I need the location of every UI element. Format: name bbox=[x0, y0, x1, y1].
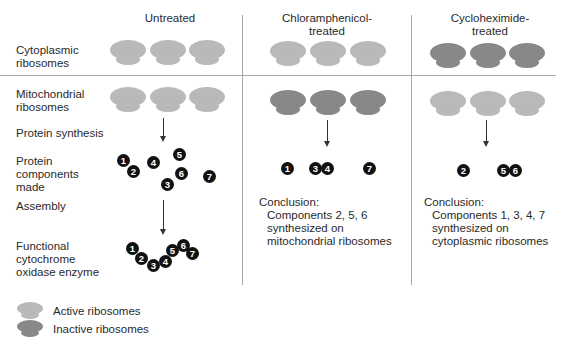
label-assembly: Assembly bbox=[16, 200, 66, 213]
component-7: 7 bbox=[203, 170, 216, 183]
component-4: 4 bbox=[147, 156, 160, 169]
label-cytoplasmic-ribosomes: Cytoplasmic ribosomes bbox=[16, 44, 79, 70]
arrow-down-icon bbox=[163, 200, 164, 230]
conclusion-line: synthesized on bbox=[259, 222, 392, 235]
label-components-made: Protein components made bbox=[16, 155, 79, 194]
header-chloramphenicol-line2: treated bbox=[262, 25, 392, 38]
conclusion-cycloheximide: Conclusion: Components 1, 3, 4, 7 synthe… bbox=[424, 196, 548, 248]
component-1: 1 bbox=[117, 154, 130, 167]
component-2: 2 bbox=[127, 165, 140, 178]
conclusion-title: Conclusion: bbox=[259, 196, 392, 209]
component-1: 1 bbox=[281, 162, 294, 175]
ribosome-icon bbox=[110, 40, 146, 66]
enzyme-component-4: 4 bbox=[159, 255, 172, 268]
conclusion-title: Conclusion: bbox=[424, 196, 548, 209]
header-untreated: Untreated bbox=[115, 12, 225, 25]
component-4: 4 bbox=[321, 162, 334, 175]
ribosome-icon bbox=[110, 87, 146, 113]
ribosome-icon bbox=[270, 41, 306, 67]
ribosome-icon bbox=[270, 90, 306, 116]
conclusion-line: synthesized on bbox=[424, 222, 548, 235]
label-line: Functional bbox=[16, 240, 99, 253]
arrow-down-icon bbox=[163, 118, 164, 137]
conclusion-line: Components 2, 5, 6 bbox=[259, 209, 392, 222]
component-3: 3 bbox=[161, 178, 174, 191]
arrow-down-icon bbox=[327, 120, 328, 142]
ribosome-icon bbox=[310, 41, 346, 67]
component-6: 6 bbox=[175, 167, 188, 180]
conclusion-line: Components 1, 3, 4, 7 bbox=[424, 209, 548, 222]
ribosome-icon bbox=[509, 91, 545, 117]
label-protein-synthesis: Protein synthesis bbox=[16, 127, 104, 140]
legend-inactive-ribosome-icon bbox=[17, 320, 43, 338]
row-divider bbox=[0, 75, 556, 76]
column-divider-2 bbox=[411, 15, 412, 285]
ribosome-icon bbox=[310, 90, 346, 116]
conclusion-line: cytoplasmic ribosomes bbox=[424, 235, 548, 248]
label-line: ribosomes bbox=[16, 101, 84, 114]
label-line: made bbox=[16, 181, 79, 194]
ribosome-icon bbox=[509, 43, 545, 69]
ribosome-icon bbox=[189, 40, 225, 66]
legend-active-ribosome-icon bbox=[17, 302, 43, 320]
ribosome-icon bbox=[189, 87, 225, 113]
column-divider-1 bbox=[242, 15, 243, 285]
label-line: components bbox=[16, 168, 79, 181]
header-cycloheximide-line2: treated bbox=[425, 25, 555, 38]
component-5: 5 bbox=[173, 148, 186, 161]
ribosome-icon bbox=[150, 40, 186, 66]
label-mitochondrial-ribosomes: Mitochondrial ribosomes bbox=[16, 88, 84, 114]
header-cycloheximide-line1: Cycloheximide- bbox=[425, 12, 555, 25]
enzyme-component-7: 7 bbox=[186, 247, 199, 260]
arrow-down-icon bbox=[486, 120, 487, 142]
header-chloramphenicol: Chloramphenicol- treated bbox=[262, 12, 392, 38]
header-chloramphenicol-line1: Chloramphenicol- bbox=[262, 12, 392, 25]
label-line: Mitochondrial bbox=[16, 88, 84, 101]
legend-inactive-label: Inactive ribosomes bbox=[53, 323, 149, 336]
label-functional-enzyme: Functional cytochrome oxidase enzyme bbox=[16, 240, 99, 279]
conclusion-line: mitochondrial ribosomes bbox=[259, 235, 392, 248]
legend-active-label: Active ribosomes bbox=[53, 305, 141, 318]
ribosome-icon bbox=[150, 87, 186, 113]
conclusion-chloramphenicol: Conclusion: Components 2, 5, 6 synthesiz… bbox=[259, 196, 392, 248]
ribosome-icon bbox=[430, 91, 466, 117]
ribosome-icon bbox=[350, 90, 386, 116]
component-6: 6 bbox=[509, 164, 522, 177]
enzyme-component-2: 2 bbox=[135, 252, 148, 265]
label-line: cytochrome bbox=[16, 253, 99, 266]
label-line: Cytoplasmic bbox=[16, 44, 79, 57]
label-line: ribosomes bbox=[16, 57, 79, 70]
ribosome-icon bbox=[350, 41, 386, 67]
label-line: oxidase enzyme bbox=[16, 266, 99, 279]
ribosome-icon bbox=[430, 43, 466, 69]
ribosome-icon bbox=[470, 91, 506, 117]
ribosome-icon bbox=[470, 43, 506, 69]
header-cycloheximide: Cycloheximide- treated bbox=[425, 12, 555, 38]
label-line: Protein bbox=[16, 155, 79, 168]
component-7: 7 bbox=[363, 162, 376, 175]
component-2: 2 bbox=[457, 164, 470, 177]
